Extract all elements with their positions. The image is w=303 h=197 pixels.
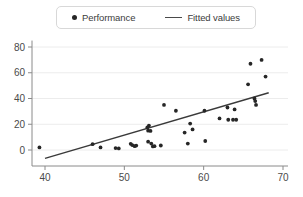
- data-point: [147, 124, 151, 128]
- y-tick-label: 0: [19, 145, 25, 156]
- data-point: [38, 146, 42, 150]
- y-axis-ticks: 020406080: [14, 42, 32, 156]
- data-point: [226, 118, 230, 122]
- data-point: [254, 103, 258, 107]
- x-tick-label: 50: [119, 172, 131, 183]
- fitted-line-segment: [45, 93, 269, 159]
- data-point: [233, 108, 237, 112]
- y-tick-label: 80: [14, 42, 26, 53]
- y-tick-label: 40: [14, 93, 26, 104]
- data-point: [203, 139, 207, 143]
- data-point: [246, 82, 250, 86]
- y-tick-label: 60: [14, 67, 26, 78]
- fitted-line: [45, 93, 269, 159]
- data-point: [226, 106, 230, 110]
- plot-area: 020406080 40506070: [0, 0, 303, 197]
- data-point: [234, 118, 238, 122]
- data-point: [117, 147, 121, 151]
- data-point: [249, 62, 253, 66]
- data-point: [191, 127, 195, 131]
- data-point: [264, 75, 268, 79]
- x-tick-label: 60: [198, 172, 210, 183]
- data-point: [253, 99, 257, 103]
- data-point: [162, 103, 166, 107]
- x-axis-ticks: 40506070: [39, 166, 289, 183]
- data-point: [153, 144, 157, 148]
- y-tick-label: 20: [14, 119, 26, 130]
- data-point: [174, 109, 178, 113]
- x-tick-label: 70: [277, 172, 289, 183]
- data-point: [188, 122, 192, 126]
- data-point: [186, 142, 190, 146]
- data-point: [159, 144, 163, 148]
- data-point: [149, 129, 153, 133]
- data-point: [146, 140, 150, 144]
- data-point: [183, 131, 187, 135]
- data-point: [260, 58, 264, 62]
- data-point: [99, 146, 103, 150]
- data-point: [91, 142, 95, 146]
- scatter-chart: Performance Fitted values 020406080 4050…: [0, 0, 303, 197]
- data-point: [134, 144, 138, 148]
- x-tick-label: 40: [39, 172, 51, 183]
- data-point: [218, 117, 222, 121]
- data-point: [203, 109, 207, 113]
- data-points: [38, 58, 268, 150]
